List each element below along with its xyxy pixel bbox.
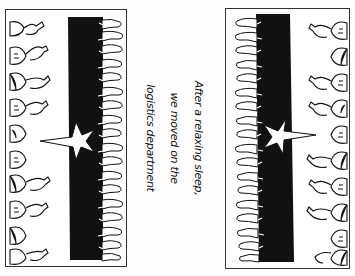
- person-figure: [10, 175, 50, 192]
- person-figure: [307, 152, 347, 169]
- person-figure: [309, 74, 347, 91]
- right-panel-drawing: [226, 9, 350, 269]
- person-figure: [10, 46, 48, 64]
- person-figure: [307, 204, 347, 221]
- left-panel-drawing: [6, 10, 127, 267]
- person-figure: [309, 178, 347, 195]
- person-figure: [10, 125, 26, 142]
- left-comic-panel: [5, 9, 127, 267]
- audience-figures: [307, 22, 347, 265]
- person-figure: [10, 99, 48, 116]
- person-figure: [331, 48, 347, 65]
- caption-text: After a relaxing sleep, we moved on the …: [138, 38, 210, 238]
- person-figure: [331, 230, 347, 247]
- caption-line-3: logistics department: [138, 38, 162, 238]
- caption-line-2: we moved on the: [162, 38, 186, 238]
- raised-hands-crowd: [102, 19, 123, 261]
- person-figure: [315, 250, 347, 265]
- person-figure: [10, 249, 48, 264]
- person-figure: [10, 227, 26, 244]
- person-figure: [10, 73, 50, 90]
- comic-page: After a relaxing sleep, we moved on the …: [0, 0, 355, 276]
- person-figure: [309, 22, 347, 39]
- caption-area: After a relaxing sleep, we moved on the …: [132, 0, 216, 276]
- right-comic-panel: [225, 8, 350, 269]
- raised-hands-crowd: [235, 18, 259, 262]
- audience-figures: [10, 22, 50, 265]
- person-figure: [10, 201, 48, 218]
- person-figure: [309, 100, 347, 117]
- person-figure: [331, 126, 347, 143]
- person-figure: [10, 151, 26, 168]
- caption-line-1: After a relaxing sleep,: [186, 38, 210, 238]
- person-figure: [10, 22, 44, 36]
